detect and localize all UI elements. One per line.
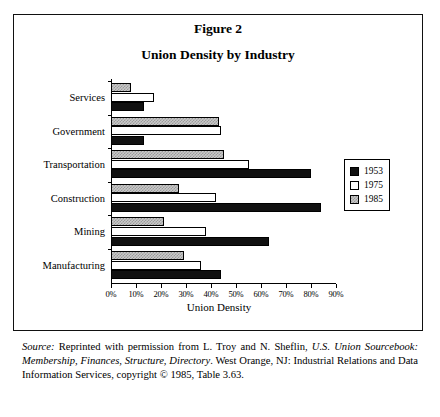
y-axis-tick <box>108 249 111 250</box>
x-axis-tick-80 <box>311 284 312 288</box>
y-axis-tick <box>108 182 111 183</box>
x-axis-tick-50 <box>236 284 237 288</box>
x-axis-tick-20 <box>161 284 162 288</box>
legend-item-1975[interactable]: 1975 <box>350 178 383 192</box>
bar-mining-1975 <box>111 227 206 236</box>
bar-transportation-1985 <box>111 150 224 159</box>
bar-government-1975 <box>111 126 221 135</box>
bar-construction-1975 <box>111 193 216 202</box>
bar-mining-1953 <box>111 237 269 246</box>
bar-manufacturing-1953 <box>111 270 221 279</box>
y-axis-tick <box>108 215 111 216</box>
bar-construction-1985 <box>111 184 179 193</box>
x-axis-tick-10 <box>136 284 137 288</box>
bar-services-1975 <box>111 93 154 102</box>
bar-construction-1953 <box>111 203 321 212</box>
category-label-construction: Construction <box>14 193 105 204</box>
x-axis-tick-60 <box>261 284 262 288</box>
category-label-manufacturing: Manufacturing <box>14 260 105 271</box>
x-axis-tick-label-60: 60% <box>247 289 275 299</box>
category-label-government: Government <box>14 126 105 137</box>
x-axis-tick-label-10: 10% <box>122 289 150 299</box>
x-axis-line <box>111 283 336 284</box>
legend-swatch-1953 <box>350 167 359 176</box>
chart-legend: 195319751985 <box>344 159 390 211</box>
x-axis-tick-label-70: 70% <box>272 289 300 299</box>
y-axis-tick <box>108 115 111 116</box>
bar-mining-1985 <box>111 217 164 226</box>
y-axis-tick <box>108 148 111 149</box>
x-axis-title: Union Density <box>14 301 424 313</box>
legend-swatch-1975 <box>350 181 359 190</box>
source-note: Source: Reprinted with permission from L… <box>22 340 418 382</box>
x-axis-tick-label-30: 30% <box>172 289 200 299</box>
x-axis-tick-label-50: 50% <box>222 289 250 299</box>
category-label-mining: Mining <box>14 226 105 237</box>
bar-transportation-1975 <box>111 160 249 169</box>
bar-services-1953 <box>111 102 144 111</box>
y-axis-tick <box>108 81 111 82</box>
legend-label-1953: 1953 <box>364 166 383 176</box>
legend-label-1975: 1975 <box>364 180 383 190</box>
x-axis-tick-label-80: 80% <box>297 289 325 299</box>
x-axis-tick-label-40: 40% <box>197 289 225 299</box>
x-axis-tick-0 <box>111 284 112 288</box>
bar-government-1953 <box>111 136 144 145</box>
source-text-1: Reprinted with permission from L. Troy a… <box>55 341 312 352</box>
category-label-transportation: Transportation <box>14 159 105 170</box>
legend-swatch-1985 <box>350 195 359 204</box>
x-axis-tick-90 <box>336 284 337 288</box>
category-label-services: Services <box>14 92 105 103</box>
legend-item-1985[interactable]: 1985 <box>350 192 383 206</box>
legend-item-1953[interactable]: 1953 <box>350 164 383 178</box>
figure-frame: Figure 2 Union Density by Industry Servi… <box>13 14 423 331</box>
bar-manufacturing-1975 <box>111 261 201 270</box>
bar-manufacturing-1985 <box>111 251 184 260</box>
source-label: Source: <box>22 341 55 352</box>
bar-services-1985 <box>111 83 131 92</box>
legend-label-1985: 1985 <box>364 194 383 204</box>
x-axis-tick-40 <box>211 284 212 288</box>
x-axis-tick-label-90: 90% <box>322 289 350 299</box>
x-axis-tick-label-0: 0% <box>97 289 125 299</box>
x-axis-tick-70 <box>286 284 287 288</box>
x-axis-tick-label-20: 20% <box>147 289 175 299</box>
x-axis-tick-30 <box>186 284 187 288</box>
bar-government-1985 <box>111 117 219 126</box>
bar-transportation-1953 <box>111 169 311 178</box>
